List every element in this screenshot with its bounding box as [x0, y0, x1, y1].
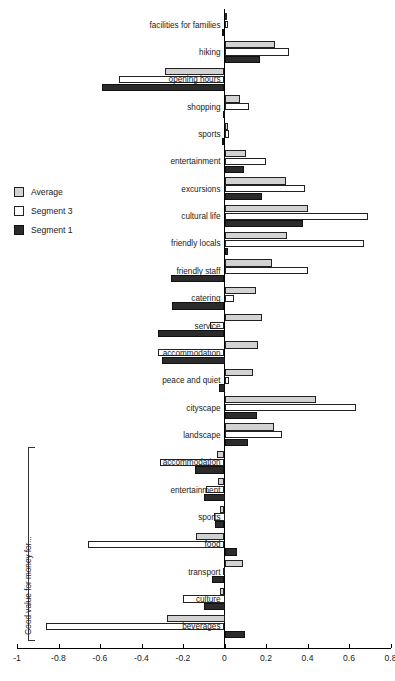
legend-item-segment-3: Segment 3 [14, 201, 73, 220]
x-tick-label-5: 0 [222, 653, 227, 663]
bar-average-21 [220, 588, 224, 595]
bar-segment-1-7 [225, 220, 304, 227]
x-tick-3 [142, 644, 143, 648]
plot-area: facilities for familieshikingopening hou… [0, 0, 395, 681]
bar-segment-1-22 [225, 631, 246, 638]
x-tick-1 [59, 644, 60, 648]
bar-segment-1-20 [212, 576, 224, 583]
bar-segment-3-1 [225, 48, 289, 55]
bar-segment-3-15 [225, 431, 282, 438]
x-tick-0 [17, 644, 18, 648]
bar-segment-1-3 [223, 111, 225, 118]
bar-average-15 [225, 423, 275, 430]
x-tick-label-6: 0.2 [260, 653, 272, 663]
x-tick-2 [100, 644, 101, 648]
category-label-3: shopping [187, 102, 220, 111]
bar-segment-1-16 [195, 466, 224, 473]
x-tick-label-9: 0.8 [385, 653, 395, 663]
bar-average-6 [225, 177, 286, 184]
bar-segment-3-9 [225, 267, 308, 274]
bar-segment-1-8 [225, 248, 228, 255]
bar-segment-1-4 [222, 138, 224, 145]
bar-segment-3-7 [225, 213, 368, 220]
bar-segment-1-13 [219, 384, 224, 391]
bar-average-9 [225, 259, 273, 266]
bar-segment-3-6 [225, 185, 306, 192]
category-label-8: friendly locals [171, 239, 221, 248]
bar-segment-3-13 [225, 377, 229, 384]
category-label-22: beverages [182, 622, 220, 631]
bar-average-3 [225, 95, 241, 102]
category-label-17: entertainment [170, 485, 220, 494]
x-tick-5 [225, 644, 226, 648]
group-bracket-label: Good value for money for... [24, 536, 33, 635]
bar-segment-1-10 [172, 302, 225, 309]
legend-swatch-segment-3-icon [14, 206, 24, 216]
category-label-7: cultural life [181, 212, 220, 221]
legend-label-segment-3: Segment 3 [31, 206, 73, 216]
category-label-20: transport [188, 567, 220, 576]
category-label-10: catering [191, 294, 220, 303]
legend-swatch-average-icon [14, 187, 24, 197]
x-tick-7 [308, 644, 309, 648]
bar-average-12 [225, 341, 258, 348]
bar-segment-3-4 [225, 130, 230, 137]
bar-average-11 [225, 314, 262, 321]
bar-segment-3-10 [225, 295, 234, 302]
category-label-13: peace and quiet [162, 376, 220, 385]
bar-segment-1-6 [225, 193, 262, 200]
bar-average-14 [225, 396, 316, 403]
bar-average-10 [225, 287, 256, 294]
bar-segment-3-3 [225, 103, 250, 110]
legend-label-average: Average [31, 187, 63, 197]
bar-segment-1-0 [222, 29, 224, 36]
legend-label-segment-1: Segment 1 [31, 225, 73, 235]
category-label-6: excursions [181, 184, 220, 193]
category-label-1: hiking [199, 48, 220, 57]
bar-average-1 [225, 41, 276, 48]
bar-segment-1-1 [225, 56, 260, 63]
x-tick-label-4: -0.2 [176, 653, 191, 663]
category-label-4: sports [198, 130, 220, 139]
category-label-16: accommodation [163, 458, 221, 467]
bar-segment-1-5 [225, 166, 245, 173]
legend-item-segment-1: Segment 1 [14, 220, 73, 239]
category-label-14: cityscape [186, 403, 220, 412]
bar-average-20 [225, 560, 244, 567]
category-label-5: entertainment [170, 157, 220, 166]
horizontal-bar-chart: facilities for familieshikingopening hou… [0, 0, 395, 681]
bar-segment-3-14 [225, 404, 357, 411]
bar-segment-1-12 [162, 357, 224, 364]
bar-segment-1-11 [158, 330, 224, 337]
bar-segment-1-21 [204, 603, 225, 610]
bar-segment-1-18 [215, 521, 224, 528]
x-tick-label-1: -0.8 [51, 653, 66, 663]
bar-average-8 [225, 232, 287, 239]
x-tick-4 [183, 644, 184, 648]
bar-segment-3-5 [225, 158, 267, 165]
category-label-21: culture [196, 594, 221, 603]
bar-segment-3-8 [225, 240, 364, 247]
bar-segment-3-0 [225, 21, 229, 28]
bar-segment-1-17 [204, 494, 225, 501]
bar-segment-1-9 [171, 275, 225, 282]
bar-segment-1-15 [225, 439, 249, 446]
x-axis-line [17, 648, 391, 649]
bar-average-18 [220, 506, 224, 513]
bar-segment-3-20 [223, 568, 225, 575]
category-label-9: friendly staff [177, 266, 221, 275]
x-tick-label-3: -0.4 [134, 653, 149, 663]
legend-item-average: Average [14, 182, 73, 201]
legend-swatch-segment-1-icon [14, 225, 24, 235]
x-tick-label-2: -0.6 [93, 653, 108, 663]
x-tick-label-7: 0.4 [302, 653, 314, 663]
x-tick-label-0: -1 [13, 653, 21, 663]
bar-average-5 [225, 150, 247, 157]
x-tick-9 [391, 644, 392, 648]
x-tick-label-8: 0.6 [343, 653, 355, 663]
bar-average-0 [225, 13, 227, 20]
x-tick-8 [349, 644, 350, 648]
bar-average-7 [225, 205, 308, 212]
category-label-19: food [205, 540, 221, 549]
category-label-11: service [195, 321, 221, 330]
